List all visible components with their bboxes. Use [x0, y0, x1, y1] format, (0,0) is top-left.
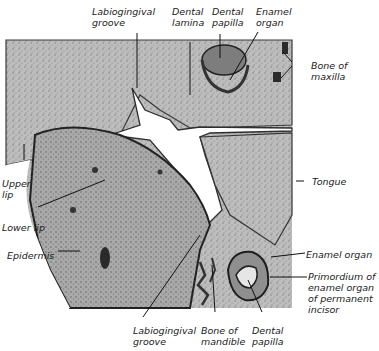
label-dental-papilla-top: Dental papilla: [212, 6, 244, 28]
label-tongue: Tongue: [312, 176, 346, 187]
label-enamel-organ-bottom: Enamel organ: [306, 249, 372, 260]
label-enamel-organ-top: Enamel organ: [256, 6, 292, 28]
label-epidermis: Epidermis: [7, 250, 54, 261]
label-upper-lip: Upper lip: [2, 178, 31, 200]
label-dental-lamina: Dental lamina: [172, 6, 204, 28]
label-bone-of-mandible: Bone of mandible: [201, 325, 245, 347]
label-primordium-permanent-incisor: Primordium of enamel organ of permanent …: [308, 271, 375, 315]
micrograph-figure: Labiogingival groove Dental lamina Denta…: [0, 0, 379, 351]
label-labiogingival-groove-bottom: Labiogingival groove: [133, 325, 196, 347]
upper-dental-papilla: [202, 45, 246, 75]
label-labiogingival-groove-top: Labiogingival groove: [92, 6, 155, 28]
label-lower-lip: Lower lip: [2, 222, 45, 233]
label-dental-papilla-bottom: Dental papilla: [252, 325, 284, 347]
label-bone-of-maxilla: Bone of maxilla: [311, 60, 347, 82]
